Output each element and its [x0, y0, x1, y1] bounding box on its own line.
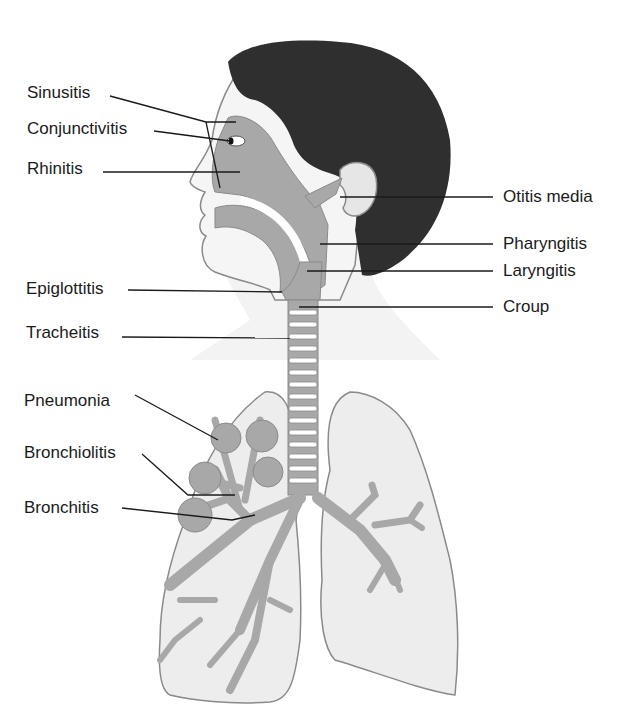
label-laryngitis: Laryngitis — [503, 262, 576, 279]
label-conjunctivitis: Conjunctivitis — [27, 120, 127, 137]
label-otitis-media: Otitis media — [503, 188, 593, 205]
label-bronchitis: Bronchitis — [24, 499, 99, 516]
anatomy-illustration — [0, 0, 629, 720]
label-bronchiolitis: Bronchiolitis — [24, 444, 116, 461]
label-sinusitis: Sinusitis — [27, 84, 90, 101]
label-croup: Croup — [503, 298, 549, 315]
label-epiglottitis: Epiglottitis — [26, 280, 103, 297]
label-pharyngitis: Pharyngitis — [503, 235, 587, 252]
left-lung — [321, 392, 458, 695]
respiratory-infection-diagram: Sinusitis Conjunctivitis Rhinitis Epiglo… — [0, 0, 629, 720]
label-rhinitis: Rhinitis — [27, 160, 83, 177]
label-tracheitis: Tracheitis — [26, 324, 99, 341]
trachea-rings — [289, 310, 317, 483]
label-pneumonia: Pneumonia — [24, 392, 110, 409]
